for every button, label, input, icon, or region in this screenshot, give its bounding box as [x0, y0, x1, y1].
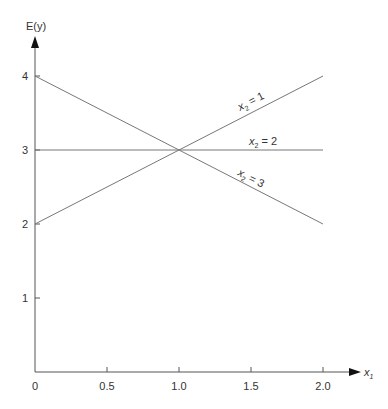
x-axis-arrow-icon: [349, 368, 361, 376]
y-ticks: [35, 76, 40, 298]
y-axis-arrow-icon: [31, 36, 39, 48]
y-tick-label: 1: [22, 292, 28, 304]
chart: 4 3 2 1 0 0.5 1.0 1.5 2.0 E(y) x1 x2 = 1…: [0, 0, 388, 409]
x-tick-label: 1.0: [171, 380, 186, 392]
x-tick-label: 0.5: [99, 380, 114, 392]
x-tick-label: 1.5: [243, 380, 258, 392]
x-ticks: [107, 367, 323, 372]
y-tick-label: 2: [22, 218, 28, 230]
y-axis-label: E(y): [26, 20, 46, 32]
series-label-x2-3: x2 = 3: [234, 166, 266, 192]
x-tick-label: 2.0: [315, 380, 330, 392]
x-tick-label: 0: [32, 380, 38, 392]
series-label-x2-1: x2 = 1: [235, 89, 267, 115]
y-tick-label: 3: [22, 144, 28, 156]
series-label-x2-2: x2 = 2: [248, 135, 277, 149]
x-axis-label: x1: [363, 366, 374, 380]
y-tick-label: 4: [22, 70, 28, 82]
